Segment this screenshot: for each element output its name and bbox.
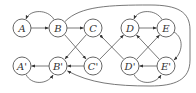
node-e-prime: E' [157,57,175,75]
node-c: C [84,19,102,37]
node-a: A [13,19,31,37]
node-a-prime: A' [13,57,31,75]
edge-e-eprime [174,32,181,60]
svg-text:C': C' [88,61,98,72]
node-b-prime: B' [49,57,67,75]
edge-e-d [134,12,162,20]
svg-text:C: C [89,23,97,34]
node-d: D [121,19,139,37]
svg-text:E': E' [160,61,171,72]
svg-text:A': A' [16,61,27,72]
nodes: A B C D E A' B' C' [13,19,175,75]
node-c-prime: C' [84,57,102,75]
svg-text:B': B' [52,61,63,72]
node-d-prime: D' [121,57,139,75]
edge-aprime-bprime [26,75,53,83]
node-b: B [49,19,67,37]
svg-text:D': D' [124,61,136,72]
svg-text:D: D [125,23,134,34]
svg-text:E: E [161,23,170,34]
node-e: E [157,19,175,37]
directed-graph-diagram: A B C D E A' B' C' [0,0,196,93]
edge-dprime-eprime [134,75,161,83]
svg-text:B: B [53,23,61,34]
edge-b-a [26,12,54,20]
edge-c-dprime-arrow [100,35,104,39]
svg-text:A: A [17,23,25,34]
